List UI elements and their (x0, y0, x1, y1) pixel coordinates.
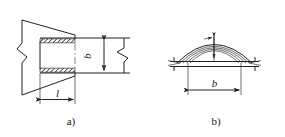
drawing-svg: b l a) (0, 0, 285, 137)
dimension-b-label-figure-b: b (212, 77, 218, 89)
figure-a: b l a) (17, 20, 130, 128)
figure-b: b b) (168, 33, 261, 128)
figure-a-caption: a) (67, 115, 76, 128)
right-break-line (117, 38, 128, 73)
dimension-b-label-figure-a: b (81, 53, 93, 59)
dimension-l-label-figure-a: l (56, 87, 59, 99)
left-break-line (17, 43, 27, 72)
engineering-drawing-canvas: b l a) (0, 0, 285, 137)
right-break-line-b (249, 57, 261, 71)
upper-weld-seam (40, 39, 75, 43)
figure-b-caption: b) (211, 115, 221, 128)
left-break-line-b (168, 57, 180, 71)
dimension-b-figure-a: b (81, 41, 104, 71)
lower-weld-seam (40, 68, 75, 72)
dimension-b-figure-b: b (188, 63, 241, 95)
trapezoidal-gusset-plate (22, 20, 75, 95)
